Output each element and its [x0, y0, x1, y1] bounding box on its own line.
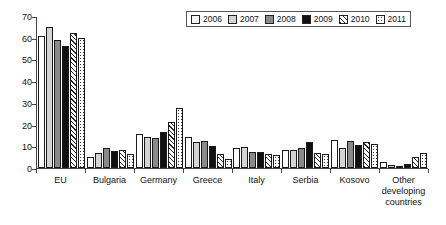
bar-2011-greece	[225, 159, 232, 168]
category-label-germany: Germany	[134, 175, 183, 208]
bar-2009-serbia	[306, 142, 313, 168]
bar-2006-bulgaria	[87, 157, 94, 168]
bar-2011-bulgaria	[127, 154, 134, 168]
category-label-eu: EU	[36, 175, 85, 208]
bar-2009-greece	[209, 146, 216, 168]
bar-2009-bulgaria	[111, 151, 118, 168]
bar-group-kosovo	[330, 17, 379, 168]
category-label-line: Italy	[232, 175, 281, 186]
bar-2010-other-developing-countries	[412, 157, 419, 168]
bar-2006-greece	[185, 137, 192, 168]
bar-2006-germany	[136, 134, 143, 168]
bar-2008-italy	[249, 152, 256, 168]
bar-2009-other-developing-countries	[404, 164, 411, 168]
y-tick-label: 50	[22, 56, 32, 65]
category-label-line: Bulgaria	[85, 175, 134, 186]
bar-2010-eu	[70, 33, 77, 168]
bar-chart: 200620072008200920102011 010203040506070…	[0, 0, 446, 225]
bar-2011-italy	[273, 155, 280, 168]
bar-2008-serbia	[298, 148, 305, 168]
category-label-line: Serbia	[281, 175, 330, 186]
bar-2011-kosovo	[371, 144, 378, 168]
y-tick-label: 60	[22, 34, 32, 43]
y-tick-mark	[32, 39, 36, 40]
category-label-bulgaria: Bulgaria	[85, 175, 134, 208]
bar-2006-serbia	[282, 150, 289, 168]
category-label-greece: Greece	[183, 175, 232, 208]
category-label-line: Greece	[183, 175, 232, 186]
bar-2010-greece	[217, 154, 224, 168]
category-label-line: Germany	[134, 175, 183, 186]
bar-2007-germany	[144, 137, 151, 168]
bar-2011-germany	[176, 108, 183, 168]
category-tick	[36, 169, 37, 173]
bar-group-serbia	[281, 17, 330, 168]
category-tick	[281, 169, 282, 173]
bar-2007-greece	[193, 142, 200, 168]
bar-2007-serbia	[290, 150, 297, 168]
category-ticks	[36, 169, 428, 173]
bar-2006-eu	[38, 36, 45, 168]
y-tick-mark	[32, 126, 36, 127]
bar-group-bulgaria	[86, 17, 135, 168]
category-label-kosovo: Kosovo	[330, 175, 379, 208]
y-tick-label: 10	[22, 143, 32, 152]
bar-2006-italy	[233, 148, 240, 168]
bar-group-eu	[37, 17, 86, 168]
bar-2010-italy	[265, 154, 272, 168]
bar-2006-kosovo	[331, 140, 338, 168]
y-tick-mark	[32, 60, 36, 61]
bar-2009-germany	[160, 132, 167, 168]
category-tick	[232, 169, 233, 173]
category-label-serbia: Serbia	[281, 175, 330, 208]
bar-2009-kosovo	[355, 145, 362, 168]
category-labels: EUBulgariaGermanyGreeceItalySerbiaKosovo…	[36, 175, 428, 208]
y-tick-label: 30	[22, 99, 32, 108]
category-tick	[330, 169, 331, 173]
bar-2008-bulgaria	[103, 148, 110, 168]
category-label-line: EU	[36, 175, 85, 186]
bar-2007-kosovo	[339, 148, 346, 168]
bar-2010-germany	[168, 122, 175, 168]
category-label-line: developing	[379, 186, 428, 197]
y-tick-mark	[32, 82, 36, 83]
bar-2007-eu	[46, 27, 53, 168]
y-tick-mark	[32, 147, 36, 148]
category-tick	[134, 169, 135, 173]
y-tick-label: 0	[27, 165, 32, 174]
bar-group-other-developing-countries	[379, 17, 428, 168]
bar-2007-bulgaria	[95, 153, 102, 168]
bar-2007-other-developing-countries	[388, 165, 395, 168]
category-label-other-developing-countries: Otherdevelopingcountries	[379, 175, 428, 208]
category-tick	[85, 169, 86, 173]
bar-group-greece	[184, 17, 233, 168]
category-tick	[428, 169, 429, 173]
category-label-line: countries	[379, 197, 428, 208]
bar-2008-eu	[54, 40, 61, 168]
bar-2008-kosovo	[347, 141, 354, 168]
bar-2011-eu	[78, 38, 85, 168]
bar-2008-germany	[152, 138, 159, 168]
bar-2006-other-developing-countries	[380, 162, 387, 169]
y-tick-label: 70	[22, 13, 32, 22]
bar-group-germany	[135, 17, 184, 168]
bar-2008-other-developing-countries	[396, 166, 403, 168]
bar-2010-serbia	[314, 153, 321, 168]
bar-2009-eu	[62, 46, 69, 168]
bar-2009-italy	[257, 152, 264, 168]
category-tick	[379, 169, 380, 173]
bar-2011-serbia	[322, 154, 329, 168]
bar-2010-kosovo	[363, 142, 370, 168]
y-tick-label: 40	[22, 78, 32, 87]
bar-group-italy	[233, 17, 282, 168]
bar-2011-other-developing-countries	[420, 153, 427, 168]
bar-groups	[37, 17, 428, 168]
category-label-line: Other	[379, 175, 428, 186]
plot-area: 010203040506070	[36, 17, 428, 169]
bar-2008-greece	[201, 141, 208, 168]
bar-2007-italy	[241, 147, 248, 168]
y-tick-mark	[32, 17, 36, 18]
bar-2010-bulgaria	[119, 150, 126, 168]
category-label-italy: Italy	[232, 175, 281, 208]
category-label-line: Kosovo	[330, 175, 379, 186]
